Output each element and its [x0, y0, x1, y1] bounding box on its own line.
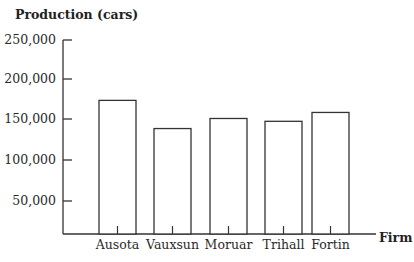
x-tick-label-fortin: Fortin — [301, 237, 361, 252]
bar-trihall — [265, 121, 302, 234]
x-tick-label-vauxsun: Vauxsun — [143, 237, 203, 252]
x-tick-label-ausota: Ausota — [88, 237, 148, 252]
bar-plot-area — [0, 0, 414, 262]
bar-moruar — [210, 118, 247, 234]
bar-vauxsun — [154, 129, 191, 234]
bar-fortin — [312, 112, 349, 234]
bar-ausota — [99, 100, 136, 234]
x-axis-title: Firm — [379, 230, 412, 245]
x-tick-label-moruar: Moruar — [199, 237, 259, 252]
